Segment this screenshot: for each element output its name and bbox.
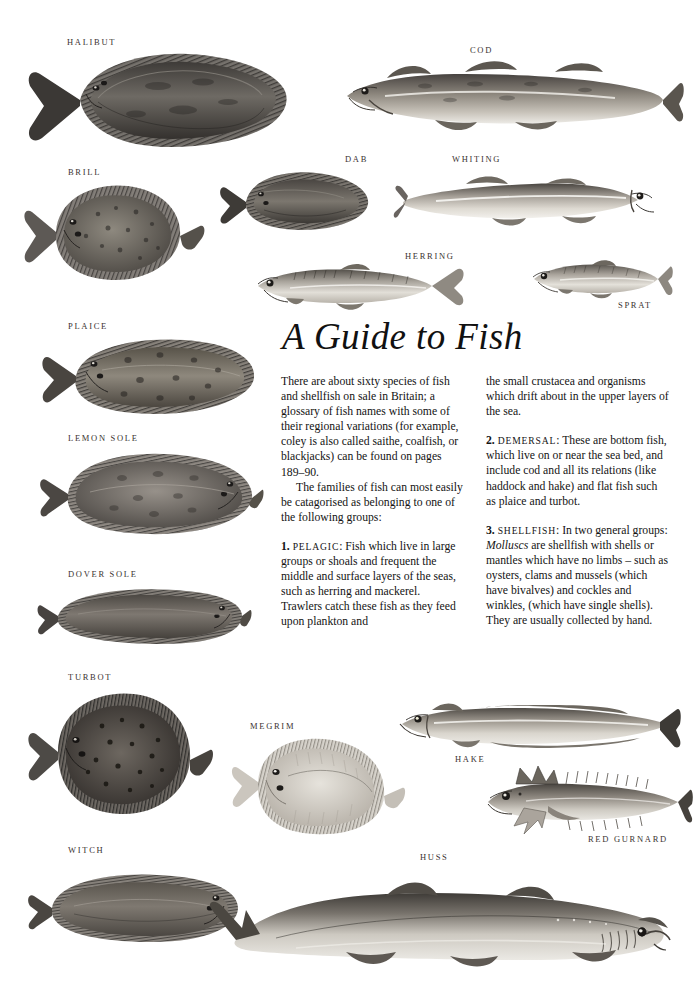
label-hake: HAKE	[455, 755, 485, 764]
shellfish-number: 3.	[486, 524, 495, 537]
paragraph-shellfish: 3. Shellfish: In two general groups: Mol…	[486, 523, 669, 629]
label-cod: COD	[470, 46, 493, 55]
label-whiting: WHITING	[452, 155, 501, 164]
dab-illustration	[218, 166, 378, 236]
whiting-illustration	[396, 168, 658, 230]
huss-illustration	[206, 856, 676, 972]
label-brill: BRILL	[68, 168, 101, 177]
shellfish-term: Shellfish	[498, 525, 556, 536]
lemon-sole-illustration	[38, 446, 264, 542]
label-witch: WITCH	[68, 846, 104, 855]
plaice-illustration	[36, 330, 262, 422]
label-huss: HUSS	[420, 853, 449, 862]
label-plaice: PLAICE	[68, 322, 108, 331]
molluscs-italic: Molluscs	[486, 539, 528, 552]
label-red-gurnard: RED GURNARD	[588, 835, 668, 844]
pelagic-text: : Fish which live in large groups or sho…	[281, 540, 456, 628]
hake-illustration	[392, 692, 682, 764]
paragraph-demersal: 2. Demersal: These are bottom fish, whic…	[486, 433, 669, 508]
pelagic-term: Pelagic	[293, 541, 339, 552]
label-megrim: MEGRIM	[250, 722, 295, 731]
label-dover-sole: DOVER SOLE	[68, 570, 138, 579]
demersal-term: Demersal	[498, 435, 557, 446]
cod-illustration	[335, 48, 683, 134]
article-right-column: the small crustacea and organisms which …	[486, 374, 669, 630]
paragraph-pelagic: 1. Pelagic: Fish which live in large gro…	[281, 539, 464, 630]
sprat-illustration	[520, 255, 672, 303]
halibut-illustration	[18, 44, 293, 154]
demersal-number: 2.	[486, 434, 495, 447]
shellfish-text-before: : In two general groups:	[556, 524, 668, 537]
dover-sole-illustration	[36, 582, 252, 652]
label-dab: DAB	[345, 155, 368, 164]
label-sprat: SPRAT	[618, 301, 652, 310]
fish-guide-page: HALIBUT COD BRILL DAB WHITING HERRING SP…	[0, 0, 693, 981]
red-gurnard-illustration	[480, 764, 692, 838]
shellfish-text-after: are shellfish with shells or mantles whi…	[486, 539, 668, 627]
turbot-illustration	[24, 686, 214, 826]
page-title: A Guide to Fish	[282, 318, 523, 357]
article-body: There are about sixty species of fish an…	[281, 374, 677, 630]
herring-illustration	[240, 258, 468, 316]
label-halibut: HALIBUT	[67, 38, 116, 47]
megrim-illustration	[226, 730, 408, 840]
label-lemon-sole: LEMON SOLE	[68, 434, 139, 443]
paragraph-families: The families of fish can most easily be …	[281, 480, 464, 525]
brill-illustration	[16, 178, 206, 288]
article-left-column: There are about sixty species of fish an…	[281, 374, 464, 630]
witch-illustration	[26, 866, 246, 952]
paragraph-pelagic-continued: the small crustacea and organisms which …	[486, 374, 669, 419]
pelagic-number: 1.	[281, 540, 290, 553]
label-herring: HERRING	[405, 252, 455, 261]
label-turbot: TURBOT	[68, 673, 112, 682]
paragraph-intro: There are about sixty species of fish an…	[281, 374, 464, 480]
